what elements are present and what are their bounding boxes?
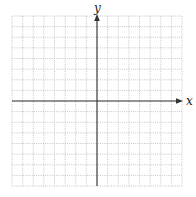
coordinate-grid: x y [0,0,196,197]
x-axis-arrow-icon [176,98,183,104]
x-axis-label: x [186,94,193,108]
y-axis-label: y [93,1,101,15]
y-axis-arrow-icon [94,14,100,21]
